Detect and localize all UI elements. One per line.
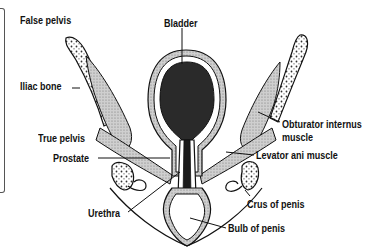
label-iliac-bone: Iliac bone [20,80,62,92]
label-urethra: Urethra [88,207,120,219]
label-prostate: Prostate [53,152,89,164]
label-crus-of-penis: Crus of penis [247,198,305,210]
bulb-of-penis [164,188,211,246]
label-bladder: Bladder [164,17,198,29]
label-bulb-of-penis: Bulb of penis [228,222,285,234]
label-obturator-internus-line2: muscle [282,131,313,143]
label-true-pelvis: True pelvis [38,132,85,144]
label-obturator-internus-line1: Obturator internus [282,118,362,130]
label-false-pelvis: False pelvis [20,14,71,26]
label-levator-ani: Levator ani muscle [256,149,338,161]
